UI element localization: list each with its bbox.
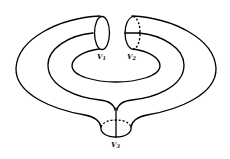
label-v3: V3: [111, 141, 120, 149]
inner-left-edge: [48, 33, 115, 110]
label-v1: V1: [97, 53, 106, 61]
label-v2: V2: [127, 53, 136, 61]
inner-hole-edge: [72, 49, 160, 82]
outer-left-edge: [16, 16, 101, 127]
pair-of-pants-diagram: [0, 0, 230, 159]
outer-right-edge: [131, 16, 216, 127]
boundary-v1-circle: [95, 17, 110, 50]
